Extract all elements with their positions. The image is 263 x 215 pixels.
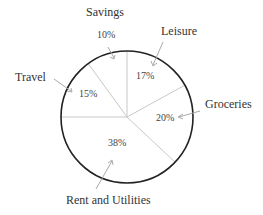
percent-groceries: 20%: [156, 112, 174, 123]
label-savings: Savings: [86, 5, 124, 20]
percent-leisure: 17%: [136, 70, 154, 81]
percent-savings: 10%: [97, 29, 115, 40]
label-leisure: Leisure: [161, 24, 197, 39]
rent-arrow: [96, 161, 112, 189]
label-travel: Travel: [15, 70, 46, 85]
label-rent-and-utilities: Rent and Utilities: [66, 193, 151, 208]
label-groceries: Groceries: [205, 97, 252, 112]
percent-travel: 15%: [79, 88, 97, 99]
percent-rent: 38%: [108, 137, 126, 148]
slice-divider: [127, 117, 175, 162]
